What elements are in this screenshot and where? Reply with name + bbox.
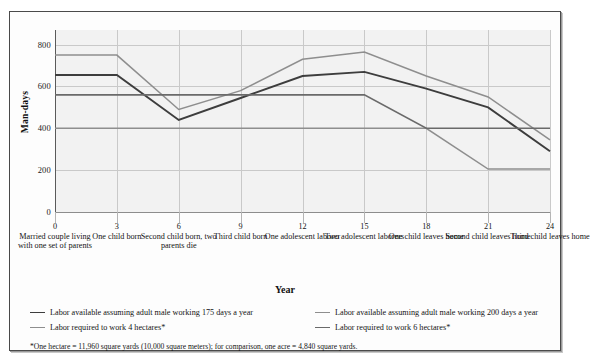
legend-swatch-icon	[315, 312, 330, 313]
legend-label: Labor required to work 6 hectares*	[335, 323, 450, 332]
x-tick-caption: Third child leaves home	[507, 232, 593, 242]
footnote: *One hectare = 11,960 square yards (10,0…	[30, 342, 357, 351]
y-tick-label: 200	[11, 165, 51, 175]
legend-row: Labor available assuming adult male work…	[30, 305, 545, 320]
legend-item: Labor required to work 4 hectares*	[30, 320, 315, 335]
legend-swatch-icon	[315, 327, 330, 328]
legend: Labor available assuming adult male work…	[30, 305, 545, 335]
series-line-2	[55, 128, 550, 169]
chart-series-layer	[55, 30, 551, 213]
x-axis-title: Year	[10, 284, 560, 295]
legend-label: Labor available assuming adult male work…	[50, 308, 253, 317]
legend-swatch-icon	[30, 312, 45, 313]
x-tick-group: 24Third child leaves home	[507, 222, 593, 241]
y-axis-title: Man-days	[20, 67, 30, 157]
y-axis-labels: 0200400600800	[10, 12, 51, 222]
legend-item: Labor required to work 6 hectares*	[315, 320, 545, 335]
legend-swatch-icon	[30, 327, 45, 328]
series-line-3	[55, 95, 550, 128]
y-tick-label: 600	[11, 81, 51, 91]
legend-label: Labor available assuming adult male work…	[335, 308, 538, 317]
x-tick-label: 24	[507, 222, 593, 232]
y-tick-label: 0	[11, 207, 51, 217]
legend-item: Labor available assuming adult male work…	[315, 305, 545, 320]
series-line-0	[55, 72, 550, 151]
series-line-1	[55, 52, 550, 140]
figure-frame: 0200400600800 Man-days 0Married couple l…	[9, 11, 561, 351]
legend-row: Labor required to work 4 hectares*Labor …	[30, 320, 545, 335]
y-tick-label: 400	[11, 123, 51, 133]
legend-item: Labor available assuming adult male work…	[30, 305, 315, 320]
y-tick-label: 800	[11, 40, 51, 50]
legend-label: Labor required to work 4 hectares*	[50, 323, 165, 332]
